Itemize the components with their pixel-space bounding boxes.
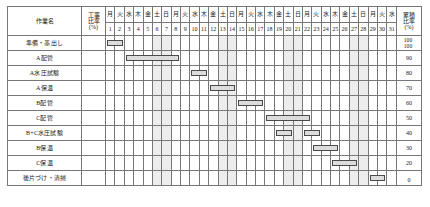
gantt-day-cell xyxy=(106,96,115,111)
gantt-day-cell xyxy=(274,171,283,186)
construction-ratio-cell xyxy=(82,126,106,141)
header-day-number: 12 xyxy=(209,22,218,35)
gantt-day-cell xyxy=(246,126,255,141)
construction-ratio-cell xyxy=(82,156,106,171)
table-row[interactable]: A保温70 xyxy=(8,81,422,96)
construction-ratio-cell xyxy=(82,141,106,156)
task-name-cell: C配管 xyxy=(8,111,82,126)
header-day-number: 2 xyxy=(115,22,124,35)
gantt-day-cell xyxy=(199,36,208,51)
table-row[interactable]: A配管90 xyxy=(8,51,422,66)
gantt-day-cell xyxy=(359,111,368,126)
gantt-day-cell xyxy=(190,96,199,111)
gantt-day-cell xyxy=(171,156,180,171)
gantt-day-cell xyxy=(124,66,133,81)
gantt-day-cell xyxy=(237,81,246,96)
gantt-bar xyxy=(330,145,338,151)
task-name-cell: 後片づけ・清掃 xyxy=(8,171,82,186)
gantt-day-cell xyxy=(162,111,171,126)
gantt-day-cell xyxy=(368,126,377,141)
cumulative-ratio-cell: 90 xyxy=(397,51,422,66)
cumulative-scale-value: 0 xyxy=(397,177,421,183)
gantt-day-cell xyxy=(284,66,293,81)
gantt-day-cell xyxy=(265,96,274,111)
gantt-day-cell xyxy=(106,126,115,141)
gantt-day-cell xyxy=(293,141,302,156)
gantt-day-cell xyxy=(256,141,265,156)
task-name-cell: B+C水圧試験 xyxy=(8,126,82,141)
gantt-day-cell xyxy=(246,156,255,171)
header-day-number: 23 xyxy=(312,22,321,35)
construction-ratio-cell xyxy=(82,111,106,126)
gantt-day-cell xyxy=(134,66,143,81)
header-weekday: 日 xyxy=(359,7,368,23)
gantt-day-cell xyxy=(181,156,190,171)
header-day-number: 31 xyxy=(387,22,397,35)
table-row[interactable]: B配管60 xyxy=(8,96,422,111)
header-weekday: 金 xyxy=(340,7,349,23)
gantt-day-cell xyxy=(237,36,246,51)
gantt-day-cell xyxy=(340,66,349,81)
gantt-day-cell xyxy=(246,36,255,51)
gantt-day-cell xyxy=(143,96,152,111)
gantt-day-cell xyxy=(171,51,180,66)
gantt-day-cell xyxy=(321,81,330,96)
gantt-bar xyxy=(283,130,291,136)
gantt-bar xyxy=(227,85,235,91)
table-row[interactable]: C配管50 xyxy=(8,111,422,126)
gantt-day-cell xyxy=(124,141,133,156)
table-row[interactable]: 準備・墨出し100100 xyxy=(8,36,422,51)
gantt-day-cell xyxy=(331,66,340,81)
gantt-day-cell xyxy=(284,96,293,111)
table-row[interactable]: B+C水圧試験40 xyxy=(8,126,422,141)
gantt-day-cell xyxy=(387,36,397,51)
gantt-day-cell xyxy=(302,156,311,171)
task-name-cell: B保温 xyxy=(8,141,82,156)
gantt-day-cell xyxy=(349,156,358,171)
table-row[interactable]: C保温20 xyxy=(8,156,422,171)
gantt-day-cell xyxy=(143,81,152,96)
gantt-bar xyxy=(171,55,179,61)
gantt-day-cell xyxy=(293,51,302,66)
gantt-day-cell xyxy=(190,156,199,171)
gantt-bar xyxy=(199,70,207,76)
construction-ratio-cell xyxy=(82,51,106,66)
task-name-cell: A保温 xyxy=(8,81,82,96)
gantt-day-cell xyxy=(302,171,311,186)
gantt-day-cell xyxy=(284,51,293,66)
gantt-day-cell xyxy=(152,126,161,141)
table-row[interactable]: 後片づけ・清掃0 xyxy=(8,171,422,186)
gantt-day-cell xyxy=(190,36,199,51)
gantt-day-cell xyxy=(340,111,349,126)
gantt-day-cell xyxy=(237,111,246,126)
gantt-day-cell xyxy=(134,81,143,96)
gantt-day-cell xyxy=(387,51,397,66)
table-row[interactable]: B保温30 xyxy=(8,141,422,156)
construction-ratio-cell xyxy=(82,81,106,96)
gantt-day-cell xyxy=(256,171,265,186)
gantt-day-cell xyxy=(227,36,236,51)
gantt-day-cell xyxy=(349,36,358,51)
header-day-number: 17 xyxy=(256,22,265,35)
gantt-day-cell xyxy=(256,81,265,96)
gantt-day-cell xyxy=(171,81,180,96)
gantt-day-cell xyxy=(190,81,199,96)
gantt-day-cell xyxy=(162,141,171,156)
gantt-day-cell xyxy=(218,126,227,141)
gantt-day-cell xyxy=(162,36,171,51)
gantt-day-cell xyxy=(293,36,302,51)
header-day-number: 10 xyxy=(190,22,199,35)
gantt-day-cell xyxy=(190,51,199,66)
header-day-number: 15 xyxy=(237,22,246,35)
gantt-day-cell xyxy=(124,111,133,126)
header-weekday: 金 xyxy=(143,7,152,23)
gantt-day-cell xyxy=(181,66,190,81)
construction-ratio-cell xyxy=(82,171,106,186)
gantt-day-cell xyxy=(199,171,208,186)
gantt-day-cell xyxy=(377,111,386,126)
header-weekday: 火 xyxy=(115,7,124,23)
table-row[interactable]: A水圧試験80 xyxy=(8,66,422,81)
gantt-day-cell xyxy=(293,171,302,186)
gantt-day-cell xyxy=(368,36,377,51)
gantt-day-cell xyxy=(293,126,302,141)
